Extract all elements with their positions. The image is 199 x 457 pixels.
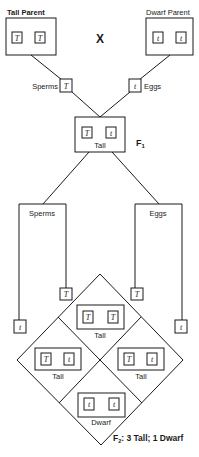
f2-punnett-diamond: T T Tall T t Tall T t Tall t (17, 274, 183, 445)
bracket-line (135, 204, 182, 320)
connector-line (31, 55, 62, 80)
f2-cell-bottom: t t Dwarf (78, 393, 125, 427)
parent-egg-gamete: t Eggs (129, 79, 161, 92)
connector-line (139, 55, 170, 80)
allele-label: T (64, 290, 69, 299)
sperms-label: Sperms (29, 209, 55, 218)
connector-line (100, 92, 130, 117)
allele-label: T (135, 290, 140, 299)
phenotype-label: Dwarf (91, 418, 112, 427)
phenotype-label: Tall (135, 372, 147, 381)
eggs-label: Eggs (144, 82, 161, 91)
f1-phenotype: Tall (94, 141, 106, 150)
allele-label: T (111, 313, 116, 322)
allele-label: T (38, 34, 43, 43)
f1-sperm-bracket: Sperms T t (14, 204, 72, 333)
f2-cell-left: T t Tall (35, 348, 81, 381)
tall-parent: Tall Parent T T (6, 8, 56, 55)
f1-generation: T t Tall F1 (75, 117, 146, 152)
phenotype-label: Tall (52, 372, 64, 381)
eggs-label: Eggs (149, 209, 166, 218)
f2-cell-top: T T Tall (77, 305, 124, 340)
connector-line (72, 92, 100, 117)
f1-egg-bracket: Eggs T t (131, 204, 187, 333)
phenotype-label: Tall (94, 331, 106, 340)
f1-label: F1 (136, 138, 146, 149)
allele-label: T (15, 34, 20, 43)
cross-symbol: X (96, 32, 104, 46)
tall-parent-label: Tall Parent (7, 8, 45, 17)
bracket-line (19, 204, 66, 320)
allele-label: T (85, 129, 90, 138)
sperms-label: Sperms (32, 82, 58, 91)
allele-label: T (64, 82, 69, 91)
connector-line (43, 152, 89, 204)
monohybrid-cross-diagram: Tall Parent T T X Dwarf Parent t t Sperm… (0, 0, 199, 457)
allele-label: T (44, 355, 49, 364)
f2-summary: F2: 3 Tall; 1 Dwarf (113, 433, 184, 444)
dwarf-parent-label: Dwarf Parent (146, 8, 191, 17)
allele-label: T (127, 355, 132, 364)
f2-cell-right: T t Tall (118, 348, 164, 381)
dwarf-parent: Dwarf Parent t t (146, 8, 193, 55)
connector-line (112, 152, 159, 204)
parent-sperm-gamete: Sperms T (32, 79, 72, 92)
allele-label: T (86, 313, 91, 322)
